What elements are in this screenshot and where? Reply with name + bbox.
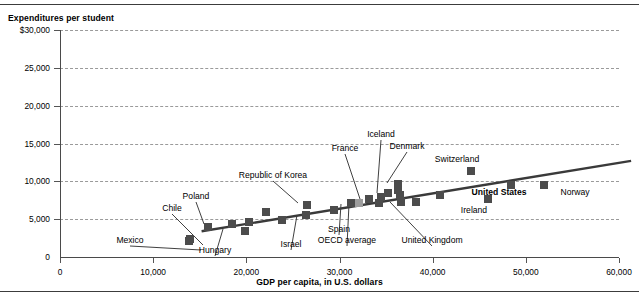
point-label-united-kingdom: United Kingdom bbox=[401, 235, 462, 245]
data-point-hungary bbox=[228, 220, 236, 228]
data-point-united-kingdom bbox=[397, 198, 405, 206]
data-point-chile bbox=[186, 235, 194, 243]
point-label-chile: Chile bbox=[162, 203, 182, 213]
data-point bbox=[436, 191, 444, 199]
point-label-norway: Norway bbox=[560, 187, 589, 197]
data-point-switzerland bbox=[467, 167, 475, 175]
data-point bbox=[278, 216, 286, 224]
point-label-ireland: Ireland bbox=[461, 205, 487, 215]
point-label-republic-of-korea: Republic of Korea bbox=[239, 170, 307, 180]
point-label-united-states: United States bbox=[472, 187, 527, 197]
point-label-oecd-average: OECD average bbox=[318, 235, 376, 245]
point-label-israel: Israel bbox=[280, 239, 301, 249]
point-label-spain: Spain bbox=[328, 224, 350, 234]
point-label-iceland: Iceland bbox=[367, 129, 395, 139]
point-label-france: France bbox=[332, 143, 359, 153]
data-point bbox=[245, 218, 253, 226]
point-label-poland: Poland bbox=[183, 191, 210, 201]
point-label-hungary: Hungary bbox=[199, 245, 231, 255]
data-point-spain bbox=[347, 199, 355, 207]
data-point bbox=[241, 227, 249, 235]
scatter-chart-figure: Expenditures per student GDP per capita,… bbox=[0, 0, 639, 297]
data-point bbox=[262, 208, 270, 216]
data-point-norway bbox=[540, 181, 548, 189]
point-label-mexico: Mexico bbox=[116, 235, 143, 245]
trendline bbox=[0, 0, 639, 297]
point-label-switzerland: Switzerland bbox=[435, 154, 479, 164]
data-point-france bbox=[365, 195, 373, 203]
data-point-oecd-average bbox=[355, 199, 363, 207]
data-point-republic-of-korea bbox=[303, 201, 311, 209]
data-point-israel bbox=[302, 211, 310, 219]
data-point-poland bbox=[204, 223, 212, 231]
data-point bbox=[412, 198, 420, 206]
data-point bbox=[330, 206, 338, 214]
data-point-iceland bbox=[384, 189, 392, 197]
point-label-denmark: Denmark bbox=[390, 141, 425, 151]
